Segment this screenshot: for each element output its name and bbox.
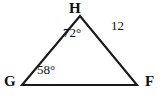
side-length-label-hf: 12 <box>111 19 124 32</box>
vertex-label-g: G <box>4 74 16 89</box>
angle-label-h: 72° <box>63 26 81 39</box>
angle-label-g: 58° <box>37 63 55 76</box>
vertex-label-f: F <box>145 74 154 89</box>
triangle-outline <box>0 0 163 99</box>
vertex-label-h: H <box>69 1 81 16</box>
triangle-diagram: H G F 72° 58° 12 <box>0 0 163 99</box>
